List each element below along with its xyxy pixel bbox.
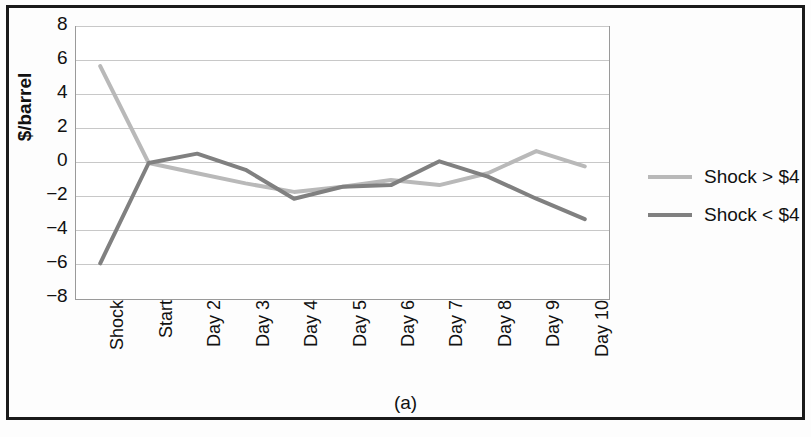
legend-label: Shock > $4 (704, 166, 800, 188)
x-axis-tick: Day 5 (350, 300, 371, 390)
legend-swatch-icon (648, 213, 692, 217)
plot-area (75, 26, 610, 300)
y-axis-tick: 6 (7, 47, 67, 69)
y-axis-tick: 4 (7, 81, 67, 103)
figure-caption: (a) (0, 392, 811, 414)
x-axis-tick: Day 3 (253, 300, 274, 390)
figure-border-right (802, 5, 805, 420)
legend: Shock > $4Shock < $4 (648, 158, 800, 234)
figure-border-top (6, 5, 805, 8)
x-axis-tick: Shock (107, 300, 128, 390)
x-axis-tick: Day 7 (446, 300, 467, 390)
y-axis-tick: 0 (7, 149, 67, 171)
y-axis-tick: 8 (7, 13, 67, 35)
legend-label: Shock < $4 (704, 204, 800, 226)
legend-item: Shock > $4 (648, 158, 800, 196)
y-axis-tick: −2 (7, 183, 67, 205)
series-line-1 (100, 66, 585, 192)
figure-panel: $/barrel 86420−2−4−6−8 ShockStartDay 2Da… (0, 0, 811, 437)
legend-item: Shock < $4 (648, 196, 800, 234)
y-axis-tick: −6 (7, 251, 67, 273)
x-axis-tick-labels: ShockStartDay 2Day 3Day 4Day 5Day 6Day 7… (75, 302, 610, 397)
y-axis-tick-labels: 86420−2−4−6−8 (0, 0, 75, 320)
x-axis-tick: Day 4 (301, 300, 322, 390)
x-axis-tick: Day 8 (495, 300, 516, 390)
y-axis-tick: −4 (7, 217, 67, 239)
legend-swatch-icon (648, 175, 692, 179)
x-axis-tick: Day 9 (543, 300, 564, 390)
x-axis-tick: Day 10 (592, 300, 613, 390)
x-axis-tick: Day 6 (398, 300, 419, 390)
y-axis-tick: −8 (7, 285, 67, 307)
figure-border-bottom (6, 417, 805, 420)
y-axis-tick: 2 (7, 115, 67, 137)
series-lines (76, 27, 609, 299)
x-axis-tick: Start (156, 300, 177, 390)
x-axis-tick: Day 2 (204, 300, 225, 390)
